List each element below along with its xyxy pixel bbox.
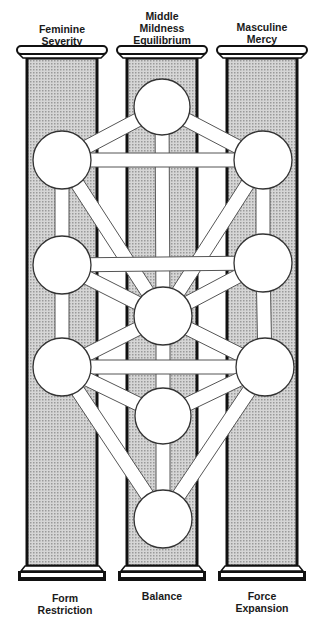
label-line: Mercy: [207, 33, 317, 45]
path-band: [62, 256, 263, 272]
label-line: Force: [207, 590, 317, 602]
pillar-capital: [17, 46, 107, 54]
pillar-capital: [117, 46, 207, 54]
sephira-5: [33, 236, 91, 294]
right-pillar-top-label: Masculine Mercy: [207, 21, 317, 45]
sephira-8: [33, 338, 91, 396]
path-band: [62, 360, 265, 374]
pillar-base-neck: [121, 566, 203, 571]
middle-pillar-top-label: Middle Mildness Equilibrium: [107, 10, 217, 46]
label-line: Form: [10, 592, 120, 604]
sephira-10: [134, 490, 192, 548]
path-band: [155, 107, 170, 316]
sephira-7: [236, 338, 294, 396]
sephira-4: [234, 234, 292, 292]
label-line: Masculine: [207, 21, 317, 33]
left-pillar-bottom-label: Form Restriction: [10, 592, 120, 616]
path-band: [62, 153, 263, 167]
label-line: Equilibrium: [107, 34, 217, 46]
middle-pillar-bottom-label: Balance: [107, 590, 217, 602]
label-line: Restriction: [10, 604, 120, 616]
label-line: Feminine: [7, 23, 117, 35]
tree-of-life-diagram: [0, 0, 327, 628]
sephira-3: [33, 131, 91, 189]
sephira-1: [134, 79, 190, 135]
label-line: Expansion: [207, 602, 317, 614]
label-line: Balance: [107, 590, 217, 602]
label-line: Middle: [107, 10, 217, 22]
pillar-capital: [217, 46, 307, 54]
label-line: Mildness: [107, 22, 217, 34]
right-pillar-bottom-label: Force Expansion: [207, 590, 317, 614]
left-pillar-top-label: Feminine Severity: [7, 23, 117, 47]
label-line: Severity: [7, 35, 117, 47]
pillar-base-neck: [21, 566, 103, 571]
sephira-2: [234, 131, 292, 189]
sephira-9: [135, 388, 191, 444]
sephira-6: [134, 287, 192, 345]
pillar-base-neck: [221, 566, 303, 571]
